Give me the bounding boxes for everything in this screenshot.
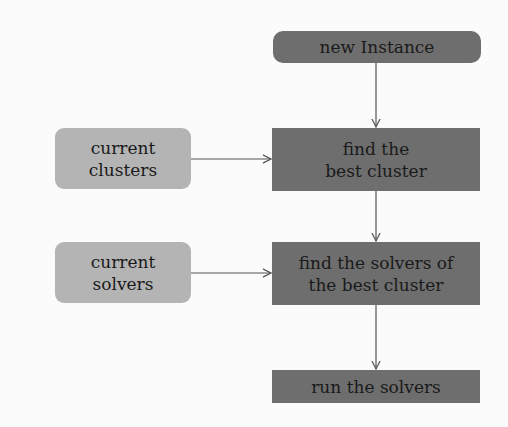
node-label: new Instance	[320, 36, 435, 58]
node-current-solvers: current solvers	[55, 242, 191, 303]
edges-layer	[0, 0, 508, 427]
node-label-line-1: current	[91, 251, 156, 273]
node-label: run the solvers	[311, 376, 441, 398]
node-run-the-solvers: run the solvers	[272, 370, 480, 403]
node-label-line-2: best cluster	[325, 160, 427, 182]
node-find-solvers-of-best-cluster: find the solvers of the best cluster	[272, 242, 480, 305]
node-label-line-1: current	[91, 137, 156, 159]
node-label-line-1: find the solvers of	[299, 252, 454, 274]
node-label-line-2: solvers	[93, 273, 154, 295]
node-new-instance: new Instance	[273, 31, 481, 63]
node-find-best-cluster: find the best cluster	[272, 128, 480, 191]
node-label-line-2: clusters	[89, 159, 157, 181]
node-label-line-2: the best cluster	[309, 274, 444, 296]
node-label-line-1: find the	[343, 138, 409, 160]
node-current-clusters: current clusters	[55, 128, 191, 189]
